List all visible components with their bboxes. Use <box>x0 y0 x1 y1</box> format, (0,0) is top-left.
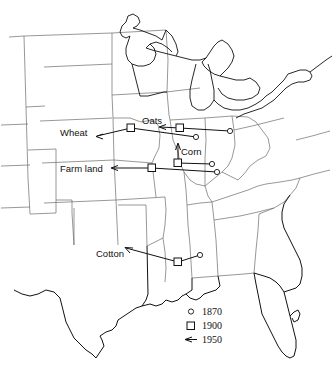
great-lakes-outline <box>120 14 332 118</box>
label-oats: Oats <box>142 115 162 126</box>
map-legend: 1870 1900 1950 <box>185 306 222 345</box>
marker-farmland-1900 <box>148 164 156 172</box>
marker-oats-1870 <box>227 128 232 133</box>
legend-label-1870: 1870 <box>202 306 222 317</box>
series-farm-land <box>111 164 220 175</box>
marker-oats-1900 <box>176 124 184 132</box>
marker-cotton-1900 <box>174 258 182 266</box>
marker-corn-1870 <box>209 161 214 166</box>
us-outline-map: Wheat Oats Corn Farm land Cotton 1870 19… <box>0 0 336 367</box>
legend-label-1950: 1950 <box>202 334 222 345</box>
marker-wheat-1870 <box>193 134 198 139</box>
marker-cotton-1870 <box>197 252 202 257</box>
state-borders <box>1 30 330 282</box>
series-oats <box>159 124 233 134</box>
label-farm-land: Farm land <box>60 163 103 174</box>
label-corn: Corn <box>181 146 202 157</box>
crop-labels: Wheat Oats Corn Farm land Cotton <box>60 115 202 259</box>
label-cotton: Cotton <box>96 248 124 259</box>
marker-corn-1900 <box>174 159 182 167</box>
map-figure: Wheat Oats Corn Farm land Cotton 1870 19… <box>0 0 336 367</box>
legend-square-icon <box>187 322 195 330</box>
marker-farmland-1870 <box>214 169 219 174</box>
legend-label-1900: 1900 <box>202 320 222 331</box>
marker-wheat-1900 <box>127 124 135 132</box>
legend-circle-icon <box>188 309 193 314</box>
label-wheat: Wheat <box>60 127 88 138</box>
